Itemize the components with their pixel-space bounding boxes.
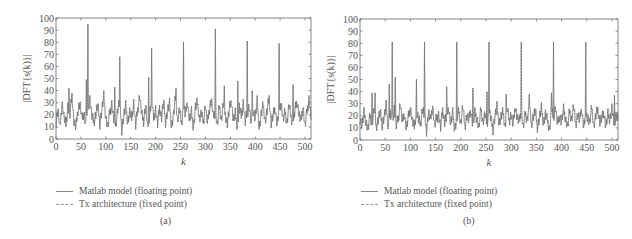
y-tick-label: 90 [348, 26, 358, 37]
x-tick-label: 400 [554, 142, 569, 153]
y-tick-label: 10 [44, 121, 54, 132]
legend-label: Matlab model (floating point) [79, 185, 192, 198]
x-tick-label: 250 [173, 141, 188, 152]
legend-item-tx: Tx architecture (fixed point) [56, 198, 192, 211]
x-tick-label: 0 [358, 142, 363, 153]
y-tick-label: 60 [44, 61, 54, 72]
y-tick-label: 40 [348, 86, 358, 97]
x-tick-label: 200 [453, 142, 468, 153]
legend-b: Matlab model (floating point) Tx archite… [361, 185, 497, 211]
x-axis-label: k [181, 155, 187, 167]
legend-label: Matlab model (floating point) [384, 185, 497, 198]
x-tick-label: 100 [403, 142, 418, 153]
x-tick-label: 350 [223, 141, 238, 152]
y-tick-label: 30 [44, 97, 54, 108]
x-tick-label: 150 [428, 142, 443, 153]
legend-label: Tx architecture (fixed point) [384, 198, 492, 211]
x-tick-label: 50 [380, 142, 390, 153]
y-axis-label: |DFT{s(k)}| [325, 55, 337, 103]
y-tick-label: 80 [44, 37, 54, 48]
x-tick-label: 100 [98, 141, 113, 152]
y-tick-label: 50 [44, 73, 54, 84]
y-tick-label: 50 [348, 74, 358, 85]
y-tick-label: 30 [348, 98, 358, 109]
solid-line-icon [56, 191, 73, 192]
x-tick-label: 500 [604, 142, 619, 153]
series-matlab-model [56, 24, 311, 135]
chart-panel-b: 0102030405060708090100050100150200250300… [320, 0, 632, 239]
legend-a: Matlab model (floating point) Tx archite… [56, 185, 192, 211]
x-tick-label: 450 [579, 142, 594, 153]
legend-item-tx: Tx architecture (fixed point) [361, 198, 497, 211]
legend-item-matlab: Matlab model (floating point) [56, 185, 192, 198]
y-tick-label: 90 [44, 25, 54, 36]
x-axis-label: k [487, 156, 493, 168]
y-tick-label: 100 [39, 13, 54, 24]
y-tick-label: 40 [44, 85, 54, 96]
x-tick-label: 150 [123, 141, 138, 152]
caption-a: (a) [160, 215, 171, 226]
x-tick-label: 500 [298, 141, 313, 152]
plot-area [360, 42, 618, 136]
x-tick-label: 450 [273, 141, 288, 152]
dashed-line-icon [361, 204, 378, 205]
caption-b: (b) [463, 215, 475, 226]
dft-magnitude-plot-a: 0102030405060708090100050100150200250300… [0, 0, 320, 175]
x-tick-label: 400 [248, 141, 263, 152]
x-tick-label: 200 [148, 141, 163, 152]
y-axis-label: |DFT{s(k)}| [21, 54, 33, 102]
x-tick-label: 300 [504, 142, 519, 153]
y-tick-label: 100 [343, 14, 358, 25]
legend-label: Tx architecture (fixed point) [79, 198, 187, 211]
y-tick-label: 10 [348, 122, 358, 133]
chart-panel-a: 0102030405060708090100050100150200250300… [0, 0, 320, 239]
x-tick-label: 250 [478, 142, 493, 153]
dft-magnitude-plot-b: 0102030405060708090100050100150200250300… [320, 0, 632, 175]
y-tick-label: 70 [348, 50, 358, 61]
y-tick-label: 60 [348, 62, 358, 73]
x-tick-label: 50 [76, 141, 86, 152]
solid-line-icon [361, 191, 378, 192]
y-tick-label: 80 [348, 38, 358, 49]
plot-area [56, 24, 311, 135]
x-tick-label: 0 [54, 141, 59, 152]
dashed-line-icon [56, 204, 73, 205]
y-tick-label: 20 [348, 110, 358, 121]
x-tick-label: 350 [529, 142, 544, 153]
y-tick-label: 70 [44, 49, 54, 60]
x-tick-label: 300 [198, 141, 213, 152]
y-tick-label: 20 [44, 109, 54, 120]
legend-item-matlab: Matlab model (floating point) [361, 185, 497, 198]
